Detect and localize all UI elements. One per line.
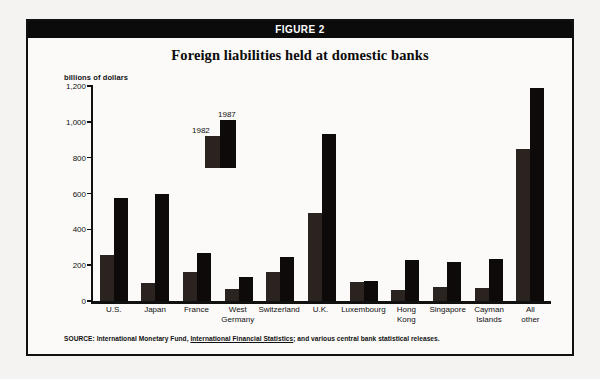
bar-1987: [405, 260, 419, 301]
bar-1982: [266, 272, 280, 301]
x-axis-category-label: U.K.: [300, 305, 341, 324]
bar-group: [509, 86, 551, 301]
source-suffix: ; and various central bank statistical r…: [293, 335, 439, 342]
x-axis-category-label: Luxembourg: [341, 305, 385, 324]
bar-group: [426, 86, 468, 301]
plot-region: 02004006008001,0001,200 1982 1987: [91, 86, 551, 301]
bar-group: [384, 86, 426, 301]
bar-group: [135, 86, 177, 301]
y-axis-tick-label: 600: [73, 189, 86, 198]
x-axis-category-label: U.S.: [93, 305, 134, 324]
bar-group: [468, 86, 510, 301]
bar-groups: [93, 86, 551, 301]
bar-group: [343, 86, 385, 301]
bar-1987: [280, 257, 294, 301]
bar-1987: [197, 253, 211, 301]
bar-1987: [155, 194, 169, 301]
x-axis-category-label: Allother: [510, 305, 551, 324]
source-prefix: SOURCE: International Monetary Fund,: [64, 335, 190, 342]
legend-label-1987: 1987: [218, 110, 236, 119]
figure-container: FIGURE 2 Foreign liabilities held at dom…: [26, 19, 574, 356]
y-axis-tick-label: 800: [73, 153, 86, 162]
x-axis-category-label: WestGermany: [217, 305, 258, 324]
y-axis-tick-label: 0: [82, 297, 86, 306]
bar-1987: [364, 281, 378, 301]
bar-1987: [322, 134, 336, 301]
x-axis-category-label: France: [176, 305, 217, 324]
bar-1987: [239, 277, 253, 301]
figure-banner: FIGURE 2: [28, 21, 572, 38]
legend-swatch-1987: [220, 120, 236, 168]
figure-title: Foreign liabilities held at domestic ban…: [28, 47, 572, 64]
y-axis-tick-label: 200: [73, 261, 86, 270]
bar-1982: [516, 149, 530, 301]
x-axis-category-label: CaymanIslands: [468, 305, 509, 324]
legend-label-1982: 1982: [192, 126, 210, 135]
bar-1982: [141, 283, 155, 301]
bar-1987: [530, 88, 544, 301]
source-note: SOURCE: International Monetary Fund, Int…: [64, 335, 440, 342]
x-axis-labels: U.S.JapanFranceWestGermanySwitzerlandU.K…: [93, 305, 551, 324]
y-axis-tick-label: 1,000: [66, 117, 86, 126]
bar-group: [301, 86, 343, 301]
x-axis-category-label: Singapore: [427, 305, 468, 324]
x-axis-category-label: Switzerland: [258, 305, 299, 324]
x-axis-category-label: HongKong: [386, 305, 427, 324]
bar-1982: [391, 290, 405, 301]
figure-number-label: FIGURE 2: [275, 24, 324, 35]
y-axis-tick-label: 1,200: [66, 82, 86, 91]
bar-group: [93, 86, 135, 301]
legend-swatch-1982: [205, 136, 220, 168]
x-axis-baseline: [91, 301, 551, 304]
bar-1987: [489, 259, 503, 301]
bar-1982: [183, 272, 197, 301]
bar-1987: [114, 198, 128, 301]
chart-area: billions of dollars 02004006008001,0001,…: [28, 73, 572, 328]
x-axis-category-label: Japan: [134, 305, 175, 324]
y-axis-tick-label: 400: [73, 225, 86, 234]
bar-1982: [433, 287, 447, 301]
bar-group: [260, 86, 302, 301]
bar-1982: [100, 255, 114, 301]
bar-1982: [475, 288, 489, 301]
bar-1982: [350, 282, 364, 301]
chart-legend: 1982 1987: [192, 106, 262, 168]
source-publication-title: International Financial Statistics: [190, 335, 293, 342]
bar-1987: [447, 262, 461, 301]
bar-1982: [308, 213, 322, 301]
bar-1982: [225, 289, 239, 301]
